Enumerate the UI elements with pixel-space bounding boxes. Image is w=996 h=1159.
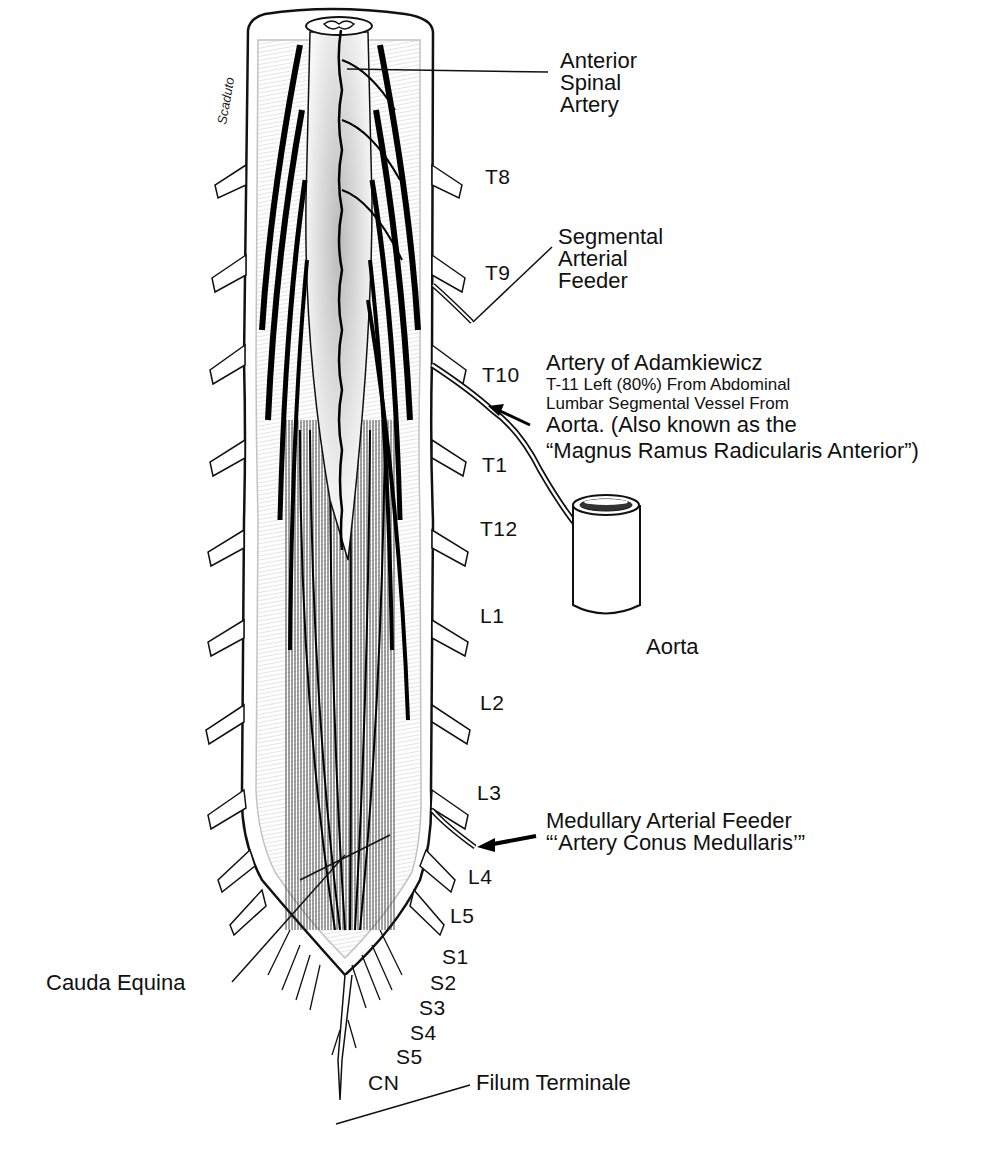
level-L2: L2: [480, 692, 504, 713]
label-segmental-arterial-feeder: Segmental Arterial Feeder: [558, 226, 663, 292]
level-T8: T8: [485, 166, 511, 187]
label-title: Artery of Adamkiewicz: [546, 352, 919, 374]
label-line: Segmental: [558, 226, 663, 248]
level-S3: S3: [419, 997, 446, 1018]
level-L5: L5: [450, 905, 474, 926]
label-line: Medullary Arterial Feeder: [546, 810, 805, 832]
label-anterior-spinal-artery: Anterior Spinal Artery: [560, 50, 637, 116]
label-line: Spinal: [560, 72, 637, 94]
label-line: Feeder: [558, 270, 663, 292]
label-cauda-equina: Cauda Equina: [46, 972, 185, 994]
label-line: Lumbar Segmental Vessel From: [546, 395, 919, 412]
aorta-cylinder: [573, 495, 640, 614]
level-S5: S5: [396, 1046, 423, 1067]
label-line: Anterior: [560, 50, 637, 72]
level-S4: S4: [410, 1022, 437, 1043]
level-S1: S1: [442, 946, 469, 967]
level-S2: S2: [430, 972, 457, 993]
level-L3: L3: [477, 782, 501, 803]
label-aorta: Aorta: [646, 636, 699, 658]
level-T12: T12: [480, 518, 518, 539]
label-medullary-arterial-feeder: Medullary Arterial Feeder “‘Artery Conus…: [546, 810, 805, 854]
label-line: T-11 Left (80%) From Abdominal: [546, 376, 919, 393]
leader-segmental-feeder: [473, 247, 552, 322]
arrow-medullary-feeder: [477, 836, 536, 852]
label-filum-terminale: Filum Terminale: [476, 1072, 631, 1094]
leader-filum-terminale: [336, 1085, 470, 1124]
label-line: Arterial: [558, 248, 663, 270]
label-line: “‘Artery Conus Medullaris’”: [546, 832, 805, 854]
label-artery-of-adamkiewicz: Artery of Adamkiewicz T-11 Left (80%) Fr…: [546, 352, 919, 462]
level-T11: T1: [482, 454, 508, 475]
level-L1: L1: [480, 605, 504, 626]
level-L4: L4: [468, 866, 492, 887]
level-T10: T10: [482, 364, 520, 385]
artist-signature: Scaduto: [214, 76, 237, 126]
level-CN: CN: [368, 1072, 399, 1093]
spinal-cord-diagram: Scaduto Anterior Spinal Artery Segmental…: [0, 0, 996, 1159]
level-T9: T9: [485, 262, 511, 283]
label-line: Artery: [560, 94, 637, 116]
label-line: “Magnus Ramus Radicularis Anterior”): [546, 440, 919, 462]
label-line: Aorta. (Also known as the: [546, 414, 919, 436]
filum-terminale: [332, 975, 356, 1100]
